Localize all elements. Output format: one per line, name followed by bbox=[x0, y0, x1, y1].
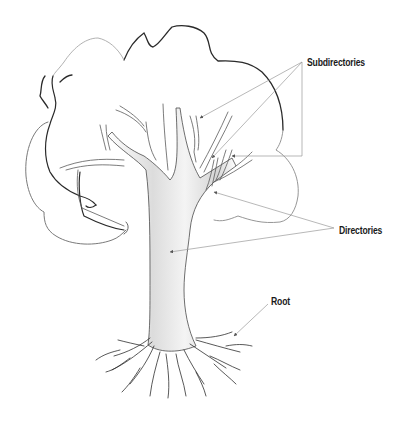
label-root: Root bbox=[271, 295, 290, 307]
label-subdirectories: Subdirectories bbox=[307, 56, 365, 68]
label-directories: Directories bbox=[339, 224, 382, 236]
tree-trunk bbox=[108, 108, 236, 351]
